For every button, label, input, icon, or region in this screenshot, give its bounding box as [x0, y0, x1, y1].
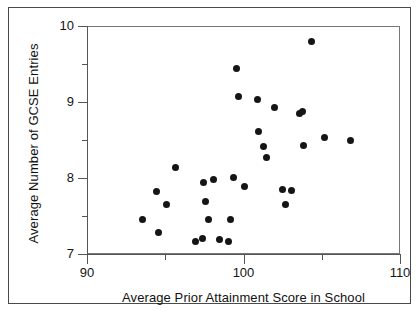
x-axis-tick-minor	[165, 254, 166, 260]
data-point	[172, 164, 179, 171]
x-axis-tick-minor	[322, 254, 323, 260]
y-axis-tick-major	[78, 102, 88, 103]
data-point	[279, 186, 286, 193]
data-point	[241, 183, 248, 190]
data-point	[202, 198, 209, 205]
data-point	[282, 201, 289, 208]
data-point	[271, 104, 278, 111]
x-axis-tick-major	[400, 254, 401, 264]
data-point	[155, 229, 162, 236]
scatter-plot-figure: 78910 90100110 Average Prior Attainment …	[0, 0, 420, 318]
data-point	[233, 65, 240, 72]
y-axis-tick-minor	[82, 216, 88, 217]
data-point	[300, 142, 307, 149]
data-point	[227, 216, 234, 223]
y-axis-tick-label: 10	[44, 19, 74, 32]
x-axis-tick-label: 90	[67, 266, 107, 279]
y-axis-tick-major	[78, 26, 88, 27]
x-axis-tick-major	[87, 254, 88, 264]
y-axis-tick-minor	[82, 64, 88, 65]
data-point	[139, 216, 146, 223]
data-point	[235, 93, 242, 100]
plot-area-frame	[87, 26, 400, 254]
y-axis-tick-label: 9	[44, 95, 74, 108]
data-point	[308, 38, 315, 45]
data-point	[347, 137, 354, 144]
data-point	[163, 201, 170, 208]
data-point	[230, 174, 237, 181]
data-point	[205, 216, 212, 223]
y-axis-tick-major	[78, 178, 88, 179]
data-point	[299, 108, 306, 115]
y-axis-tick-minor	[82, 140, 88, 141]
x-axis-tick-label: 110	[380, 266, 420, 279]
x-axis-title: Average Prior Attainment Score in School	[87, 290, 400, 305]
data-point	[216, 236, 223, 243]
data-point	[200, 179, 207, 186]
y-axis-tick-label: 8	[44, 171, 74, 184]
data-point	[254, 96, 261, 103]
data-point	[153, 188, 160, 195]
x-axis-tick-major	[244, 254, 245, 264]
data-point	[321, 134, 328, 141]
data-point	[260, 143, 267, 150]
data-point	[225, 238, 232, 245]
x-axis-tick-label: 100	[224, 266, 264, 279]
data-point	[199, 235, 206, 242]
data-point	[210, 176, 217, 183]
y-axis-tick-label: 7	[44, 247, 74, 260]
data-point	[263, 154, 270, 161]
y-axis-title: Average Number of GCSE Entries	[26, 29, 41, 259]
data-points-layer	[88, 27, 399, 253]
data-point	[255, 128, 262, 135]
data-point	[288, 187, 295, 194]
